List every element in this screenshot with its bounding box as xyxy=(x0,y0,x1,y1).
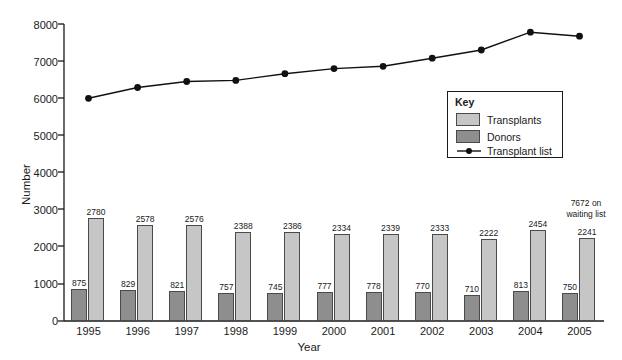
transplants-donors-chart: Number 0 1000 2000 3000 4000 5000 6000 7… xyxy=(0,0,622,360)
legend-label-transplants: Transplants xyxy=(487,114,541,126)
x-tick-label-1997: 1997 xyxy=(162,326,212,337)
x-axis-title: Year xyxy=(264,341,354,353)
legend-label-donors: Donors xyxy=(487,131,521,143)
x-tick-label-1998: 1998 xyxy=(211,326,261,337)
x-tick-label-2003: 2003 xyxy=(456,326,506,337)
x-tick-label-2004: 2004 xyxy=(505,326,555,337)
x-tick-label-1999: 1999 xyxy=(260,326,310,337)
legend-swatch-donors xyxy=(456,130,480,143)
legend-label-transplant-list: Transplant list xyxy=(487,145,552,157)
x-tick-label-2001: 2001 xyxy=(358,326,408,337)
legend-swatch-transplants xyxy=(456,113,480,126)
waiting-list-annotation: 7672 on waiting list xyxy=(553,198,619,219)
legend: Key Transplants Donors Transplant list xyxy=(447,91,563,158)
x-tick-label-1996: 1996 xyxy=(113,326,163,337)
x-tick-label-2005: 2005 xyxy=(554,326,604,337)
x-tick-label-2002: 2002 xyxy=(407,326,457,337)
legend-marker-transplant-list xyxy=(456,144,482,158)
x-tick-label-1995: 1995 xyxy=(64,326,114,337)
x-tick-labels: 1995199619971998199920002001200220032004… xyxy=(0,0,622,360)
waiting-list-annotation-line1: 7672 on xyxy=(553,198,619,209)
legend-title: Key xyxy=(455,96,474,108)
x-tick-label-2000: 2000 xyxy=(309,326,359,337)
waiting-list-annotation-line2: waiting list xyxy=(553,209,619,220)
